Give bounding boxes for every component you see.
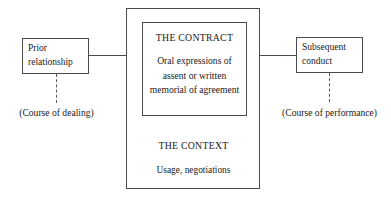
connector-right-line [260, 55, 296, 56]
dashed-line-right [329, 73, 330, 102]
course-of-dealing-caption: (Course of dealing) [4, 107, 109, 118]
contract-heading: THE CONTRACT [143, 32, 246, 43]
context-heading: THE CONTEXT [127, 140, 260, 151]
contract-box: THE CONTRACT Oral expressions of assent … [142, 22, 247, 116]
connector-left-line [89, 55, 126, 56]
prior-relationship-box: Prior relationship [22, 38, 89, 74]
contract-body-text: Oral expressions of assent or written me… [149, 54, 240, 98]
subsequent-conduct-box: Subsequent conduct [296, 37, 363, 73]
subsequent-conduct-label: Subsequent conduct [302, 41, 359, 68]
course-of-performance-caption: (Course of performance) [270, 107, 389, 118]
context-body-text: Usage, negotiations [127, 165, 260, 175]
dashed-line-left [56, 74, 57, 103]
prior-relationship-label: Prior relationship [28, 42, 85, 69]
contract-context-diagram: THE CONTRACT Oral expressions of assent … [0, 0, 391, 207]
